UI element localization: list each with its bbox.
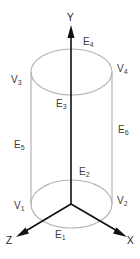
x-axis-label: X xyxy=(127,236,134,246)
edge-label-base: E xyxy=(56,98,63,109)
edge-label-base: E xyxy=(79,166,86,177)
edge-label-sub: 5 xyxy=(21,144,25,151)
vertex-label-base: V xyxy=(11,74,18,85)
vertex-label-v3: V3 xyxy=(11,75,22,85)
edge-label-e1: E1 xyxy=(55,230,66,240)
edge-label-e4: E4 xyxy=(83,37,94,47)
edge-label-base: E xyxy=(118,124,125,135)
edge-label-e3: E3 xyxy=(56,99,67,109)
edge-label-e2: E2 xyxy=(79,167,90,177)
vertex-label-sub: 1 xyxy=(21,205,25,212)
edge-label-base: E xyxy=(14,139,21,150)
y-axis-arrow-icon xyxy=(68,25,75,38)
edge-label-base: E xyxy=(55,229,62,240)
edge-label-sub: 4 xyxy=(90,41,94,48)
edge-label-sub: 2 xyxy=(86,171,90,178)
edge-label-base: E xyxy=(83,36,90,47)
edge-label-sub: 3 xyxy=(63,103,67,110)
vertex-label-v2: V2 xyxy=(117,196,128,206)
vertex-label-base: V xyxy=(117,63,124,74)
vertex-label-v1: V1 xyxy=(14,201,25,211)
vertex-label-sub: 2 xyxy=(124,200,128,207)
vertex-label-sub: 3 xyxy=(18,79,22,86)
z-axis-arrow-icon xyxy=(16,228,29,238)
vertex-label-base: V xyxy=(117,195,124,206)
vertex-label-v4: V4 xyxy=(117,64,128,74)
edge-label-sub: 1 xyxy=(62,234,66,241)
edge-label-e5: E5 xyxy=(14,140,25,150)
edge-label-e6: E6 xyxy=(118,125,129,135)
vertex-label-base: V xyxy=(14,200,21,211)
edge-label-sub: 6 xyxy=(125,129,129,136)
z-axis-label: Z xyxy=(6,236,12,246)
vertex-label-sub: 4 xyxy=(124,68,128,75)
y-axis-label: Y xyxy=(67,13,74,23)
